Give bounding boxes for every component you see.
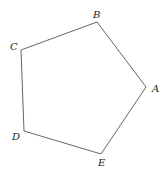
pentagon-outline: [21, 22, 146, 154]
vertex-label-e: E: [97, 157, 106, 168]
vertex-label-c: C: [10, 41, 18, 52]
pentagon-diagram: A B C D E: [0, 0, 163, 173]
vertex-label-a: A: [151, 83, 159, 94]
vertex-label-d: D: [11, 131, 20, 142]
vertex-label-b: B: [92, 9, 100, 20]
